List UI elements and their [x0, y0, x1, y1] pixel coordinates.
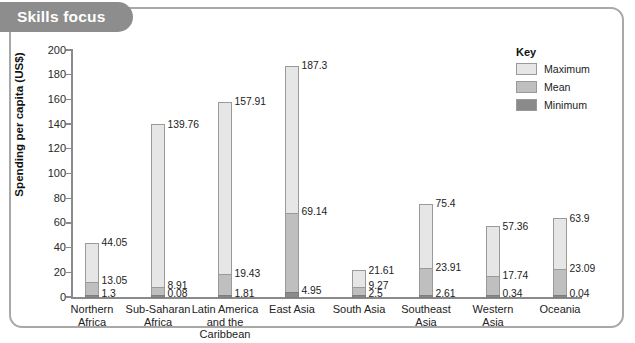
bar-mean — [553, 269, 567, 298]
chart-legend: Key MaximumMeanMinimum — [516, 46, 620, 116]
bar-mean — [419, 268, 433, 298]
bar-maximum — [285, 66, 299, 297]
y-axis-title: Spending per capita (US$) — [12, 25, 25, 225]
y-tick-mark — [66, 49, 71, 50]
y-tick-label: 160 — [32, 94, 66, 105]
legend-rows: MaximumMeanMinimum — [516, 62, 620, 111]
y-tick-mark — [66, 247, 71, 248]
y-tick-label: 140 — [32, 119, 66, 130]
y-tick-mark — [66, 148, 71, 149]
bar-maximum — [151, 124, 165, 297]
y-tick-mark — [66, 173, 71, 174]
value-label-minimum: 0.08 — [168, 289, 188, 299]
y-tick-mark — [66, 123, 71, 124]
legend-label: Minimum — [544, 99, 587, 111]
legend-label: Mean — [544, 81, 571, 93]
value-label-maximum: 139.76 — [168, 120, 200, 130]
bar-mean — [285, 213, 299, 298]
value-label-minimum: 1.3 — [102, 289, 116, 299]
value-label-mean: 23.91 — [436, 263, 462, 273]
value-label-maximum: 44.05 — [102, 238, 128, 248]
y-tick-label: 100 — [32, 168, 66, 179]
y-tick-label: 180 — [32, 69, 66, 80]
legend-item: Maximum — [516, 62, 620, 75]
value-label-mean: 23.09 — [570, 264, 596, 274]
y-tick-label: 80 — [32, 193, 66, 204]
bar-minimum — [352, 295, 366, 298]
y-tick-mark — [66, 74, 71, 75]
value-label-maximum: 57.36 — [503, 222, 529, 232]
y-tick-mark — [66, 296, 71, 297]
y-tick-label: 40 — [32, 242, 66, 253]
x-axis-category-label: Oceania — [515, 303, 605, 316]
legend-item: Minimum — [516, 98, 620, 111]
value-label-maximum: 75.4 — [436, 199, 456, 209]
y-tick-label: 60 — [32, 217, 66, 228]
value-label-maximum: 63.9 — [570, 214, 590, 224]
legend-item: Mean — [516, 80, 620, 93]
bar-minimum — [486, 295, 500, 298]
bar-maximum — [419, 204, 433, 297]
y-tick-label: 120 — [32, 143, 66, 154]
bar-maximum — [486, 226, 500, 297]
legend-swatch — [516, 99, 537, 111]
value-label-mean: 19.43 — [235, 269, 261, 279]
y-axis-line — [71, 49, 73, 298]
bar-minimum — [85, 295, 99, 298]
legend-title: Key — [516, 46, 620, 58]
y-tick-label: 200 — [32, 45, 66, 56]
y-tick-mark — [66, 272, 71, 273]
page-root: Skills focus Spending per capita (US$) 0… — [0, 0, 635, 343]
bar-maximum — [352, 270, 366, 297]
y-tick-label: 20 — [32, 267, 66, 278]
value-label-mean: 17.74 — [503, 271, 529, 281]
y-tick-mark — [66, 99, 71, 100]
bar-minimum — [553, 295, 567, 298]
value-label-minimum: 4.95 — [302, 286, 322, 296]
legend-swatch — [516, 63, 537, 75]
value-label-maximum: 157.91 — [235, 97, 267, 107]
value-label-minimum: 1.81 — [235, 289, 255, 299]
legend-swatch — [516, 81, 537, 93]
value-label-minimum: 2.5 — [369, 289, 383, 299]
bar-minimum — [151, 295, 165, 298]
y-tick-label: 0 — [32, 292, 66, 303]
value-label-maximum: 187.3 — [302, 61, 328, 71]
legend-label: Maximum — [544, 63, 590, 75]
value-label-minimum: 0.34 — [503, 289, 523, 299]
bar-maximum — [553, 218, 567, 297]
bar-maximum — [218, 102, 232, 297]
bar-minimum — [419, 295, 433, 298]
chart-canvas: Spending per capita (US$) 02040608010012… — [0, 0, 635, 343]
y-tick-mark — [66, 198, 71, 199]
value-label-maximum: 21.61 — [369, 266, 395, 276]
value-label-minimum: 0.04 — [570, 289, 590, 299]
bar-maximum — [85, 243, 99, 297]
value-label-mean: 13.05 — [102, 276, 128, 286]
value-label-mean: 69.14 — [302, 207, 328, 217]
bar-minimum — [218, 295, 232, 298]
bar-minimum — [285, 292, 299, 298]
value-label-minimum: 2.61 — [436, 289, 456, 299]
y-tick-mark — [66, 222, 71, 223]
